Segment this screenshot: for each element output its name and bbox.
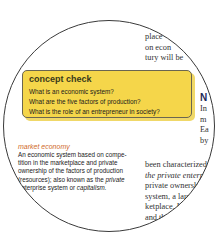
glossary-term: market economy bbox=[18, 142, 148, 151]
glossary-definition-line: An economic system based on compe- bbox=[18, 151, 148, 159]
glossary-definition-line: tition in the marketplace and private bbox=[18, 159, 148, 167]
text-line: m bbox=[200, 115, 209, 126]
concept-question: What are the five factors of production? bbox=[29, 97, 185, 107]
top-paragraph-fragment: place on econ tury will be bbox=[145, 32, 183, 64]
definition-text: (resources); also known as the bbox=[18, 176, 106, 183]
glossary-entry: market economy An economic system based … bbox=[18, 142, 148, 192]
glossary-definition-line: (resources); also known as the private bbox=[18, 176, 148, 184]
definition-text: enterprise system or bbox=[18, 184, 77, 191]
glossary-definition-line: enterprise system or capitalism. bbox=[18, 184, 148, 192]
text-line: been characterized bbox=[145, 160, 210, 171]
concept-question: What is the role of an entrepreneur in s… bbox=[29, 107, 185, 117]
text-line: tury will be bbox=[145, 53, 183, 64]
italic-text: the private enterpri bbox=[145, 171, 210, 180]
text-line: In bbox=[200, 104, 209, 115]
definition-italic: private bbox=[106, 176, 125, 183]
textbook-page: place on econ tury will be concept check… bbox=[3, 20, 215, 232]
text-line: place bbox=[145, 32, 183, 43]
text-line: system, a large bbox=[145, 192, 210, 203]
section-heading-fragment: N bbox=[200, 92, 209, 104]
text-line: Ea bbox=[200, 125, 209, 136]
text-line: A p bbox=[145, 224, 210, 232]
main-paragraph-fragment: been characterized the private enterpri … bbox=[145, 160, 210, 232]
text-line: on econ bbox=[145, 43, 183, 54]
magnifier-lens: place on econ tury will be concept check… bbox=[3, 20, 215, 232]
concept-check-box: concept check What is an economic system… bbox=[22, 70, 192, 118]
text-line: ketplace. In a bbox=[145, 202, 210, 213]
concept-check-title: concept check bbox=[29, 74, 185, 85]
text-line: private ownersh bbox=[145, 181, 210, 192]
text-line: the private enterpri bbox=[145, 171, 210, 182]
right-column-fragment: N In m Ea by bbox=[200, 92, 209, 146]
definition-italic: capitalism. bbox=[77, 184, 107, 191]
glossary-definition-line: ownership of the factors of production bbox=[18, 167, 148, 175]
text-line: by bbox=[200, 136, 209, 147]
concept-question: What is an economic system? bbox=[29, 87, 185, 97]
text-line: and the go bbox=[145, 213, 210, 224]
